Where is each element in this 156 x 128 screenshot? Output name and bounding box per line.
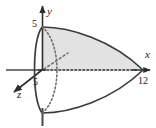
- z-axis-label: z: [16, 88, 22, 100]
- y-tick-label-5: 5: [32, 18, 37, 29]
- x-tick-label-12: 12: [138, 75, 148, 86]
- z-tick-label-5: 5: [33, 76, 38, 87]
- y-axis-label: y: [46, 5, 52, 17]
- figure-canvas: x 12 y 5 z 5: [0, 0, 156, 128]
- x-axis-label: x: [144, 48, 150, 60]
- paraboloid-figure: x 12 y 5 z 5: [0, 0, 156, 128]
